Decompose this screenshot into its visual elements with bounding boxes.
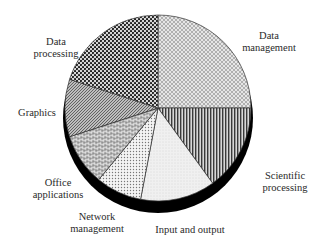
label-graphics: Graphics: [12, 107, 62, 119]
pie-slice-data-management: [158, 15, 251, 108]
label-data-management: Data management: [234, 30, 304, 54]
label-data-processing: Data processing: [28, 36, 84, 60]
label-scientific-processing: Scientific processing: [255, 170, 315, 194]
pie-slices: [65, 15, 251, 201]
label-input-output: Input and output: [145, 224, 235, 236]
label-network-management: Network management: [64, 211, 130, 235]
label-office-applications: Office applications: [28, 177, 88, 201]
